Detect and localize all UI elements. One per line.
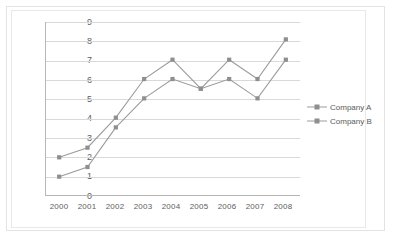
chart-screenshot: 9 8 7 6 5 4 3 2 1 0 2000 2001 2002 2003 … [0,0,394,239]
data-point-marker [57,155,61,159]
data-point-marker [170,58,174,62]
data-point-marker [227,58,231,62]
data-point-marker [85,165,89,169]
data-point-marker [255,96,259,100]
legend-item-company-b: Company B [307,114,372,128]
data-point-marker [85,146,89,150]
legend-label: Company B [330,117,372,126]
data-point-marker [57,175,61,179]
chart-legend: Company A Company B [307,100,372,128]
data-point-marker [255,77,259,81]
plot-svg [45,22,300,196]
data-point-marker [284,58,288,62]
data-point-marker [114,125,118,129]
data-point-marker [199,87,203,91]
legend-item-company-a: Company A [307,100,372,114]
x-axis-tick-label: 2008 [266,203,300,211]
series-line-2 [59,39,286,157]
legend-label: Company A [330,103,371,112]
data-point-marker [227,77,231,81]
data-point-marker [284,37,288,41]
axis-lines [45,22,300,196]
data-point-marker [170,77,174,81]
gridlines [45,23,300,197]
legend-key-icon [307,116,327,126]
data-point-marker [142,96,146,100]
data-point-marker [114,116,118,120]
data-point-marker [142,77,146,81]
legend-key-icon [307,102,327,112]
plot-area [45,22,300,196]
